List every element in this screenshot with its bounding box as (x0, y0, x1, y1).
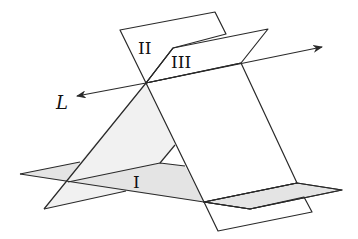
three-planes-diagram: II III I L (0, 0, 358, 239)
label-plane-I: I (133, 172, 140, 192)
label-plane-II: II (138, 38, 151, 58)
line-L-left (77, 83, 146, 96)
label-plane-III: III (171, 52, 191, 72)
label-line-L: L (55, 92, 68, 113)
plane-III-upper (146, 29, 268, 83)
